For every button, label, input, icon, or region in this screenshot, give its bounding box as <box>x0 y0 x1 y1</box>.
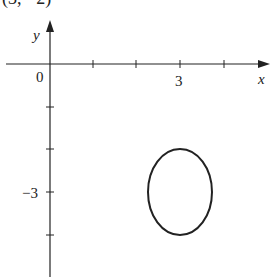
x-axis-arrow-icon <box>258 60 270 68</box>
origin-label: 0 <box>36 69 44 85</box>
y-axis-label: y <box>31 27 40 43</box>
y-axis-arrow-icon <box>46 20 54 32</box>
y-tick-label-neg3: −3 <box>22 185 38 201</box>
header-fragment: (3, −2) <box>2 0 51 9</box>
ellipse-curve <box>148 149 212 235</box>
x-tick-label-3: 3 <box>175 73 183 89</box>
x-axis-label: x <box>257 71 265 87</box>
graph: (3, −2) y x 0 3 −3 <box>0 0 270 277</box>
